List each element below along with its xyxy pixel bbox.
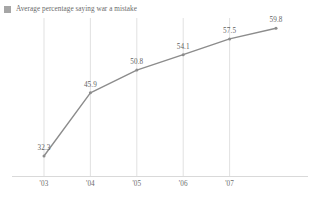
x-axis-tick-label: '06 [179,180,188,189]
data-point-marker [275,27,278,30]
data-point-marker [43,155,46,158]
legend-swatch-icon [4,6,11,13]
x-axis-tick-label: '04 [86,180,95,189]
data-point-label: 59.8 [270,16,283,24]
data-point-marker [182,53,185,56]
series-line [44,28,276,156]
chart-legend: Average percentage saying war a mistake [4,3,137,15]
line-chart-svg [12,18,308,176]
data-point-label: 57.5 [223,27,236,35]
data-point-marker [228,37,231,40]
data-point-label: 32.3 [38,144,51,152]
plot-area [12,18,308,176]
x-axis-tick-label: '05 [132,180,141,189]
legend-label: Average percentage saying war a mistake [16,5,137,14]
data-point-label: 50.8 [130,58,143,66]
chart-container: Average percentage saying war a mistake … [0,0,316,201]
data-point-label: 45.9 [84,81,97,89]
data-point-label: 54.1 [177,43,190,51]
x-axis-line [12,176,308,177]
gridlines [44,18,230,176]
x-axis-tick-label: '03 [40,180,49,189]
data-point-markers [43,27,278,158]
data-point-marker [135,69,138,72]
x-axis-tick-label: '07 [225,180,234,189]
data-point-marker [89,91,92,94]
